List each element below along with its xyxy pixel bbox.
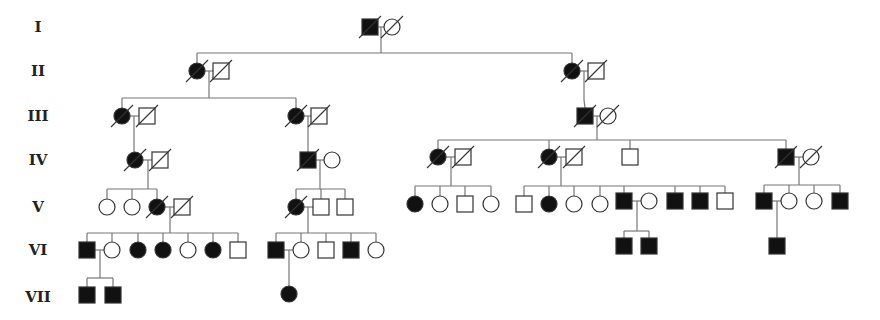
female-symbol-V-8 [407, 196, 423, 212]
male-symbol-VI-11 [343, 242, 359, 258]
male-symbol-III-4 [308, 105, 330, 127]
female-symbol-IV-1 [124, 149, 146, 171]
male-symbol-V-10 [457, 196, 473, 212]
female-symbol-III-3 [285, 105, 307, 127]
generation-label: I [34, 18, 41, 36]
male-symbol-V-24 [832, 193, 848, 209]
female-symbol-V-15 [592, 196, 608, 212]
male-symbol-VI-1 [79, 242, 95, 258]
male-symbol-VI-8 [268, 242, 284, 258]
female-symbol-VI-12 [368, 242, 384, 258]
male-symbol-V-6 [313, 199, 329, 215]
female-symbol-V-14 [566, 196, 582, 212]
female-symbol-II-1 [186, 60, 208, 82]
female-symbol-III-6 [597, 105, 619, 127]
generation-label: VI [28, 241, 48, 259]
female-symbol-VII-3 [281, 286, 297, 302]
generation-label: VII [24, 288, 51, 306]
male-symbol-VII-2 [105, 287, 121, 303]
generation-labels: IIIIIIIVVVIVII [24, 18, 51, 306]
male-symbol-IV-10 [775, 146, 797, 168]
male-symbol-VI-13 [616, 238, 632, 254]
female-symbol-V-22 [781, 193, 797, 209]
female-symbol-IV-11 [800, 146, 822, 168]
individuals [79, 16, 848, 303]
male-symbol-II-4 [585, 60, 607, 82]
male-symbol-V-16 [616, 193, 632, 209]
male-symbol-VI-7 [230, 242, 246, 258]
female-symbol-IV-7 [538, 146, 560, 168]
female-symbol-I-2 [381, 16, 403, 38]
female-symbol-VI-3 [130, 242, 146, 258]
female-symbol-III-1 [111, 105, 133, 127]
generation-label: IV [29, 151, 48, 169]
female-symbol-VI-9 [293, 242, 309, 258]
female-symbol-VI-5 [180, 242, 196, 258]
pedigree-chart: IIIIIIIVVVIVII [0, 0, 880, 320]
male-symbol-VI-10 [318, 242, 334, 258]
relationship-line [584, 100, 585, 108]
male-symbol-V-12 [516, 196, 532, 212]
female-symbol-V-9 [432, 196, 448, 212]
male-symbol-III-2 [136, 105, 158, 127]
female-symbol-II-3 [561, 60, 583, 82]
male-symbol-VII-1 [79, 287, 95, 303]
male-symbol-V-21 [756, 193, 772, 209]
female-symbol-V-11 [483, 196, 499, 212]
male-symbol-IV-3 [297, 149, 319, 171]
pedigree-canvas: IIIIIIIVVVIVII [0, 0, 880, 320]
female-symbol-V-23 [806, 193, 822, 209]
male-symbol-I-1 [359, 16, 381, 38]
female-symbol-V-13 [541, 196, 557, 212]
female-symbol-V-1 [99, 199, 115, 215]
male-symbol-V-7 [337, 199, 353, 215]
male-symbol-V-18 [667, 193, 683, 209]
male-symbol-IV-9 [622, 149, 638, 165]
generation-label: III [27, 107, 48, 125]
male-symbol-III-5 [574, 105, 596, 127]
male-symbol-V-20 [717, 193, 733, 209]
female-symbol-IV-4 [324, 152, 340, 168]
female-symbol-V-3 [146, 196, 168, 218]
generation-label: V [31, 198, 44, 216]
female-symbol-VI-2 [104, 242, 120, 258]
female-symbol-VI-4 [155, 242, 171, 258]
male-symbol-VI-14 [641, 238, 657, 254]
male-symbol-V-4 [171, 196, 193, 218]
generation-label: II [31, 62, 45, 80]
female-symbol-V-17 [641, 193, 657, 209]
female-symbol-V-5 [285, 196, 307, 218]
male-symbol-IV-2 [149, 149, 171, 171]
female-symbol-VI-6 [205, 242, 221, 258]
female-symbol-IV-5 [427, 146, 449, 168]
male-symbol-II-2 [210, 60, 232, 82]
male-symbol-V-19 [692, 193, 708, 209]
male-symbol-IV-8 [563, 146, 585, 168]
female-symbol-V-2 [124, 199, 140, 215]
male-symbol-IV-6 [452, 146, 474, 168]
male-symbol-VI-15 [769, 238, 785, 254]
